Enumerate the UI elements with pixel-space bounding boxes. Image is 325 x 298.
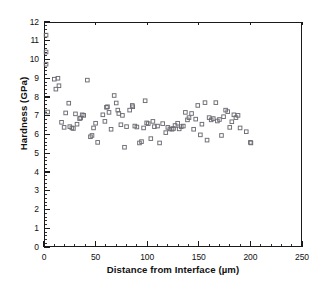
y-tick-label: 1 xyxy=(8,223,39,233)
y-tick-label: 2 xyxy=(8,204,39,214)
y-tick-label: 3 xyxy=(8,185,39,195)
x-tick-label: 50 xyxy=(76,252,116,262)
y-tick-label: 12 xyxy=(8,17,39,27)
x-tick-label: 100 xyxy=(127,252,167,262)
plot-frame xyxy=(44,22,302,247)
x-tick-label: 0 xyxy=(24,252,64,262)
x-tick-label: 200 xyxy=(230,252,270,262)
x-axis-title: Distance from Interface (µm) xyxy=(44,264,302,275)
scatter-chart-figure: 0501001502002500123456789101112 Hardness… xyxy=(0,0,325,298)
x-tick-label: 250 xyxy=(282,252,322,262)
y-tick-label: 11 xyxy=(8,35,39,45)
y-tick-label: 0 xyxy=(8,242,39,252)
y-axis-title: Hardness (GPa) xyxy=(18,54,29,174)
x-tick-label: 150 xyxy=(179,252,219,262)
